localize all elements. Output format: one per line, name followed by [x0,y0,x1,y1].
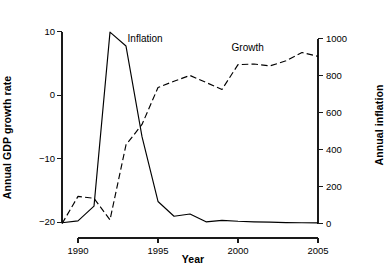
axis-ticks [57,32,323,243]
chart-figure: Annual GDP growth rate Annual inflation … [0,0,386,275]
x-axis-tick-label: 2000 [213,245,263,256]
y-axis-right-tick-label: 0 [326,218,366,229]
x-axis-tick-label: 1995 [133,245,183,256]
x-axis-tick-label: 1990 [53,245,103,256]
y-axis-left-tick-label: 0 [22,89,55,100]
series-line-inflation [62,32,318,223]
y-axis-left-tick-label: −20 [22,216,55,227]
series-paths [62,32,318,224]
y-axis-right-tick-label: 200 [326,181,366,192]
x-axis-tick-label: 2005 [293,245,343,256]
y-axis-right-tick-label: 800 [326,70,366,81]
series-annotation-growth: Growth [232,42,264,53]
y-axis-right-tick-label: 400 [326,144,366,155]
y-axis-right-tick-label: 600 [326,107,366,118]
series-annotation-inflation: Inflation [128,33,163,44]
y-axis-left-tick-label: 10 [22,26,55,37]
y-axis-right-tick-label: 1000 [326,33,366,44]
y-axis-left-tick-label: −10 [22,153,55,164]
